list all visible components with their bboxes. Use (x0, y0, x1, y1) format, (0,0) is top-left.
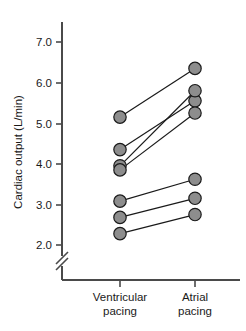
data-point-marker (114, 211, 126, 223)
data-point-marker (189, 173, 201, 185)
data-point-marker (189, 62, 201, 74)
connector-line (120, 91, 195, 166)
data-point-marker (114, 164, 126, 176)
y-tick-label-7: 7.0 (36, 36, 52, 48)
y-tick-label-5: 5.0 (36, 118, 52, 130)
y-tick-label-3: 3.0 (36, 199, 52, 211)
data-point-marker (114, 143, 126, 155)
data-point-marker (114, 195, 126, 207)
cardiac-output-chart: 7.0 6.0 5.0 4.0 3.0 2.0 Cardiac output (… (0, 0, 246, 331)
data-point-marker (114, 227, 126, 239)
y-axis: 7.0 6.0 5.0 4.0 3.0 2.0 Cardiac output (… (12, 22, 68, 280)
y-tick-label-4: 4.0 (36, 158, 52, 170)
y-axis-title: Cardiac output (L/min) (12, 95, 24, 209)
connector-lines-group (120, 68, 195, 233)
data-point-marker (189, 192, 201, 204)
data-points-group (114, 62, 201, 240)
connector-line (120, 179, 195, 201)
connector-line (120, 68, 195, 117)
connector-line (120, 198, 195, 217)
data-point-marker (189, 107, 201, 119)
y-tick-label-2: 2.0 (36, 239, 52, 251)
x-category-label-ventricular-line2: pacing (103, 305, 137, 317)
connector-line (120, 101, 195, 150)
x-axis: Ventricular pacing Atrial pacing (62, 280, 240, 317)
connector-line (120, 113, 195, 170)
figure-container: 7.0 6.0 5.0 4.0 3.0 2.0 Cardiac output (… (0, 0, 246, 331)
figure-caption (0, 322, 246, 331)
x-category-label-atrial-line2: pacing (178, 305, 212, 317)
data-point-marker (189, 208, 201, 220)
connector-line (120, 215, 195, 234)
y-tick-label-6: 6.0 (36, 77, 52, 89)
x-category-label-atrial-line1: Atrial (182, 291, 208, 303)
data-point-marker (114, 111, 126, 123)
data-point-marker (189, 85, 201, 97)
x-category-label-ventricular-line1: Ventricular (93, 291, 148, 303)
axis-break-icon (56, 251, 68, 280)
